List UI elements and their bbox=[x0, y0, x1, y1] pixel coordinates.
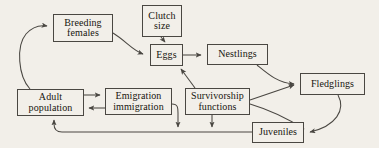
node-label-line2: immigration bbox=[113, 102, 164, 113]
diagram-canvas: Breeding females Clutch size Eggs Nestli… bbox=[0, 0, 379, 148]
node-label-line1: Adult bbox=[29, 92, 73, 103]
node-juveniles[interactable]: Juveniles bbox=[252, 122, 304, 143]
edge-juveniles-to-adult bbox=[54, 120, 252, 132]
node-label-line2: size bbox=[148, 21, 175, 32]
node-label-line1: Juveniles bbox=[259, 127, 297, 138]
edge-nestlings-to-fledglings bbox=[257, 65, 294, 84]
node-label-line1: Survivorship bbox=[191, 91, 244, 102]
node-label-line2: population bbox=[29, 103, 73, 114]
edge-adult-to-breeding bbox=[20, 26, 47, 89]
edge-breeding-to-eggs bbox=[113, 33, 143, 54]
node-label-line1: Fledglings bbox=[311, 79, 354, 90]
edge-survivorship-to-fledglings bbox=[250, 85, 294, 100]
node-emigration-immigration[interactable]: Emigration immigration bbox=[105, 88, 172, 115]
edge-fledglings-to-juveniles bbox=[310, 95, 341, 132]
node-label-line2: females bbox=[64, 28, 101, 39]
node-label-line1: Emigration bbox=[113, 91, 164, 102]
edge-survivorship-to-eggs bbox=[181, 69, 195, 88]
edge-clutch-to-eggs bbox=[161, 37, 165, 42]
node-clutch-size[interactable]: Clutch size bbox=[142, 5, 182, 37]
edge-emigration-outflow bbox=[172, 104, 178, 127]
node-breeding-females[interactable]: Breeding females bbox=[53, 14, 113, 42]
node-eggs[interactable]: Eggs bbox=[150, 44, 183, 66]
node-nestlings[interactable]: Nestlings bbox=[207, 44, 268, 65]
node-adult-population[interactable]: Adult population bbox=[17, 89, 84, 116]
node-survivorship-functions[interactable]: Survivorship functions bbox=[185, 88, 250, 115]
node-label-line1: Nestlings bbox=[218, 49, 257, 60]
node-label-line1: Eggs bbox=[156, 50, 176, 61]
node-fledglings[interactable]: Fledglings bbox=[300, 73, 365, 95]
node-label-line2: functions bbox=[191, 102, 244, 113]
